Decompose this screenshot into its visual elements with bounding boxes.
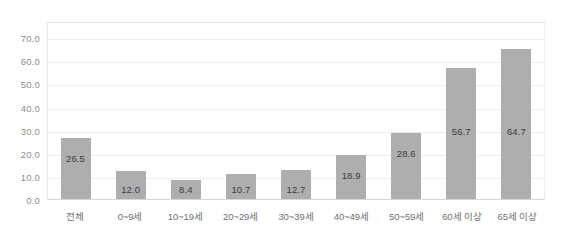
bar-slot: 18.9 xyxy=(324,23,379,199)
x-tick-label: 20~29세 xyxy=(223,211,258,222)
bar-value-label: 12.7 xyxy=(287,184,306,195)
bar[interactable]: 12.0 xyxy=(116,171,146,199)
y-tick-label: 0.0 xyxy=(26,195,40,206)
bar[interactable]: 18.9 xyxy=(336,155,366,199)
bar-slot: 12.7 xyxy=(268,23,323,199)
bar-value-label: 26.5 xyxy=(66,153,85,164)
x-tick-label: 50~59세 xyxy=(389,211,424,222)
x-tick-slot: 40~49세 xyxy=(324,201,379,224)
bar-slot: 8.4 xyxy=(158,23,213,199)
bar-slot: 64.7 xyxy=(489,23,544,199)
y-tick-label: 70.0 xyxy=(21,33,40,44)
bar[interactable]: 56.7 xyxy=(446,68,476,199)
x-tick-slot: 0~9세 xyxy=(102,201,157,224)
y-tick-label: 50.0 xyxy=(21,79,40,90)
x-tick-slot: 60세 이상 xyxy=(434,201,489,224)
bars-layer: 26.512.08.410.712.718.928.656.764.7 xyxy=(48,23,544,199)
bar[interactable]: 10.7 xyxy=(226,174,256,199)
x-tick-label: 10~19세 xyxy=(168,211,203,222)
bar-slot: 56.7 xyxy=(434,23,489,199)
x-tick-slot: 20~29세 xyxy=(213,201,268,224)
bar-slot: 12.0 xyxy=(103,23,158,199)
x-tick-label: 0~9세 xyxy=(118,211,143,222)
bar[interactable]: 28.6 xyxy=(391,133,421,199)
bar-value-label: 18.9 xyxy=(342,170,361,181)
y-axis: 0.010.020.030.040.050.060.070.0 xyxy=(0,0,47,231)
x-tick-label: 60세 이상 xyxy=(442,211,482,222)
y-tick-label: 60.0 xyxy=(21,56,40,67)
bar-chart: 0.010.020.030.040.050.060.070.0 26.512.0… xyxy=(0,0,564,231)
y-tick-label: 40.0 xyxy=(21,102,40,113)
bar-slot: 28.6 xyxy=(379,23,434,199)
bar-value-label: 56.7 xyxy=(452,126,471,137)
bar[interactable]: 12.7 xyxy=(281,170,311,199)
bar-value-label: 10.7 xyxy=(231,184,250,195)
bar[interactable]: 26.5 xyxy=(61,138,91,199)
bar[interactable]: 8.4 xyxy=(171,180,201,199)
bar-value-label: 8.4 xyxy=(179,184,193,195)
bar-value-label: 12.0 xyxy=(121,184,140,195)
x-tick-slot: 50~59세 xyxy=(379,201,434,224)
x-tick-label: 40~49세 xyxy=(334,211,369,222)
x-axis: 전체0~9세10~19세20~29세30~39세40~49세50~59세60세 … xyxy=(47,201,545,229)
y-tick-label: 30.0 xyxy=(21,125,40,136)
x-tick-label: 65세 이상 xyxy=(497,211,537,222)
x-tick-slot: 65세 이상 xyxy=(490,201,545,224)
y-tick-label: 20.0 xyxy=(21,148,40,159)
x-tick-slot: 30~39세 xyxy=(268,201,323,224)
bar-value-label: 64.7 xyxy=(507,126,526,137)
bar-slot: 10.7 xyxy=(213,23,268,199)
bar[interactable]: 64.7 xyxy=(501,49,531,199)
bar-value-label: 28.6 xyxy=(397,148,416,159)
bar-slot: 26.5 xyxy=(48,23,103,199)
y-tick-label: 10.0 xyxy=(21,171,40,182)
x-tick-slot: 10~19세 xyxy=(158,201,213,224)
x-tick-label: 전체 xyxy=(66,211,84,222)
x-tick-slot: 전체 xyxy=(47,201,102,224)
plot-area: 26.512.08.410.712.718.928.656.764.7 xyxy=(47,22,545,200)
x-tick-label: 30~39세 xyxy=(278,211,313,222)
